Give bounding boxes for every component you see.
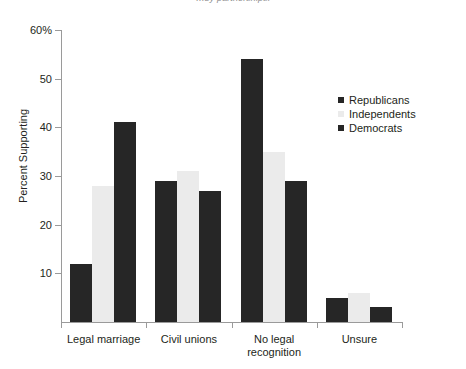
chart-legend: RepublicansIndependentsDemocrats (338, 93, 458, 135)
bar-group (62, 30, 147, 322)
y-axis-tick-label: 10 (4, 267, 52, 279)
bar-group (147, 30, 232, 322)
bar (199, 191, 221, 322)
bar-group (233, 30, 318, 322)
bar (348, 293, 370, 322)
bar (326, 298, 348, 322)
bar (263, 152, 285, 322)
y-axis-tick (55, 225, 61, 226)
y-axis-tick (55, 176, 61, 177)
bar-group (318, 30, 403, 322)
bar (370, 307, 392, 322)
x-axis-tick (317, 322, 318, 328)
legend-swatch-icon (338, 97, 344, 103)
legend-item-label: Republicans (349, 94, 410, 106)
y-axis-title: Percent Supporting (17, 86, 29, 226)
x-axis-tick (402, 322, 403, 328)
bar (285, 181, 307, 322)
bar (155, 181, 177, 322)
y-axis-tick-label: 60% (4, 24, 52, 36)
legend-item-label: Democrats (349, 122, 402, 134)
legend-swatch-icon (338, 111, 344, 117)
y-axis-tick (55, 127, 61, 128)
bar (92, 186, 114, 322)
legend-swatch-icon (338, 125, 344, 131)
bar (114, 122, 136, 322)
x-axis-category-label: Unsure (304, 333, 414, 346)
bar (70, 264, 92, 322)
legend-item: Republicans (338, 93, 458, 107)
bar (241, 59, 263, 322)
legend-item-label: Independents (349, 108, 416, 120)
y-axis-tick (55, 273, 61, 274)
y-axis-tick (55, 30, 61, 31)
y-axis-tick-label: 50 (4, 73, 52, 85)
y-axis-tick (55, 79, 61, 80)
grouped-bar-chart: 60%5040302010 Percent Supporting Legal m… (0, 0, 466, 369)
x-axis-tick (146, 322, 147, 328)
legend-item: Democrats (338, 121, 458, 135)
legend-item: Independents (338, 107, 458, 121)
plot-area (62, 30, 402, 322)
bar (177, 171, 199, 322)
x-axis-tick (232, 322, 233, 328)
x-axis-tick (61, 322, 62, 328)
